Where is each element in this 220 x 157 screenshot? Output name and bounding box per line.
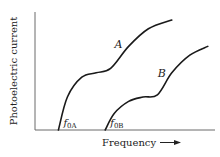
curve-label-a: A: [114, 38, 123, 51]
y-axis-label: Photoelectric current: [8, 17, 19, 126]
threshold-label-b: f0B: [109, 117, 123, 130]
curve-label-b: B: [157, 67, 166, 80]
photoelectric-chart: Photoelectric current Frequency Af0ABf0B: [0, 0, 220, 157]
x-axis-arrow-icon: [160, 140, 181, 145]
x-axis-label: Frequency: [102, 137, 156, 148]
series-layer: Af0ABf0B: [58, 20, 207, 130]
threshold-subscript-b: 0B: [114, 122, 124, 130]
threshold-label-a: f0A: [62, 117, 77, 130]
threshold-subscript-a: 0A: [67, 122, 77, 130]
curve-b: [105, 46, 208, 130]
